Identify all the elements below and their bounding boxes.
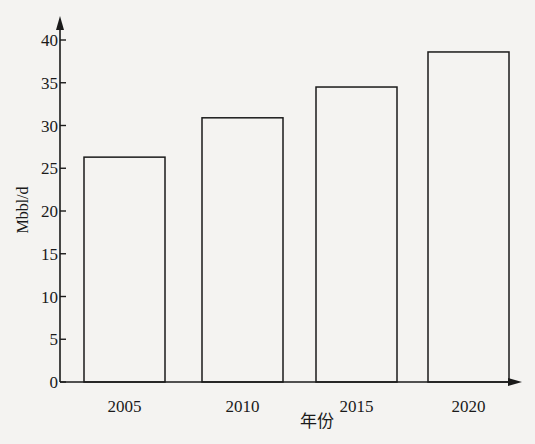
y-axis-ticks: 0510152025303540 (41, 31, 66, 392)
x-axis-arrow-icon (508, 378, 522, 386)
bar-2015 (316, 87, 397, 382)
y-tick-label: 0 (50, 373, 59, 392)
x-tick-label: 2015 (340, 397, 374, 416)
y-tick-label: 35 (41, 74, 58, 93)
y-tick-label: 5 (50, 330, 59, 349)
y-tick-label: 30 (41, 117, 58, 136)
y-tick-label: 40 (41, 31, 58, 50)
x-tick-label: 2010 (226, 397, 260, 416)
x-axis-label: 年份 (300, 411, 334, 431)
x-tick-label: 2020 (452, 397, 486, 416)
bar-chart: 0510152025303540 2005201020152020 年份 Mbb… (0, 0, 535, 444)
y-tick-label: 10 (41, 288, 58, 307)
y-tick-label: 20 (41, 202, 58, 221)
y-axis-label: Mbbl/d (14, 186, 31, 233)
bar-2010 (202, 118, 283, 382)
bar-2005 (84, 157, 165, 382)
x-tick-label: 2005 (108, 397, 142, 416)
y-tick-label: 25 (41, 159, 58, 178)
bar-2020 (428, 52, 509, 382)
x-axis-tick-labels: 2005201020152020 (108, 397, 486, 416)
y-tick-label: 15 (41, 245, 58, 264)
bars (84, 52, 509, 382)
y-axis-arrow-icon (56, 16, 64, 30)
